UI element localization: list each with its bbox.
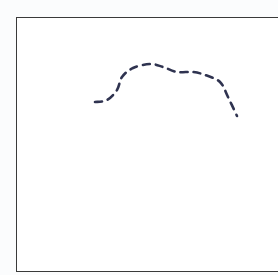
- dashed-curve: [95, 64, 237, 116]
- dashed-curve-plot: [0, 0, 278, 275]
